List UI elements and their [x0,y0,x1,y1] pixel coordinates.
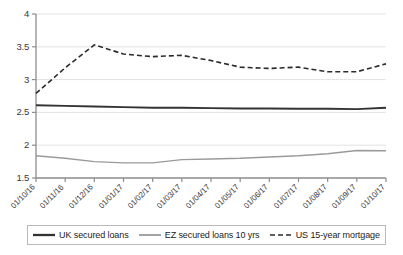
y-axis-tick-label: 3.5 [3,41,29,52]
y-axis-tick-label: 3 [3,74,29,85]
y-axis-tick-label: 1.5 [3,172,29,183]
series-line-0 [36,105,386,109]
y-axis-tick-label: 2.5 [3,106,29,117]
legend-label: UK secured loans [59,230,128,240]
chart-legend: UK secured loansEZ secured loans 10 yrsU… [27,225,386,245]
dashed-dark-line-icon [270,230,292,240]
series-line-2 [36,45,386,94]
legend-item[interactable]: UK secured loans [31,230,130,240]
line-chart: 1.522.533.54 01/10/1601/11/1601/12/1601/… [0,0,403,255]
legend-item[interactable]: US 15-year mortgage [268,230,382,240]
legend-label: EZ secured loans 10 yrs [165,230,260,240]
solid-gray-line-icon [139,230,161,240]
legend-label: US 15-year mortgage [296,230,380,240]
gridlines [36,14,386,145]
y-axis-tick-label: 2 [3,139,29,150]
y-axis-tick-label: 4 [3,8,29,19]
legend-item[interactable]: EZ secured loans 10 yrs [137,230,262,240]
series-line-1 [36,150,386,162]
solid-dark-line-icon [33,230,55,240]
plot-area [0,0,403,255]
